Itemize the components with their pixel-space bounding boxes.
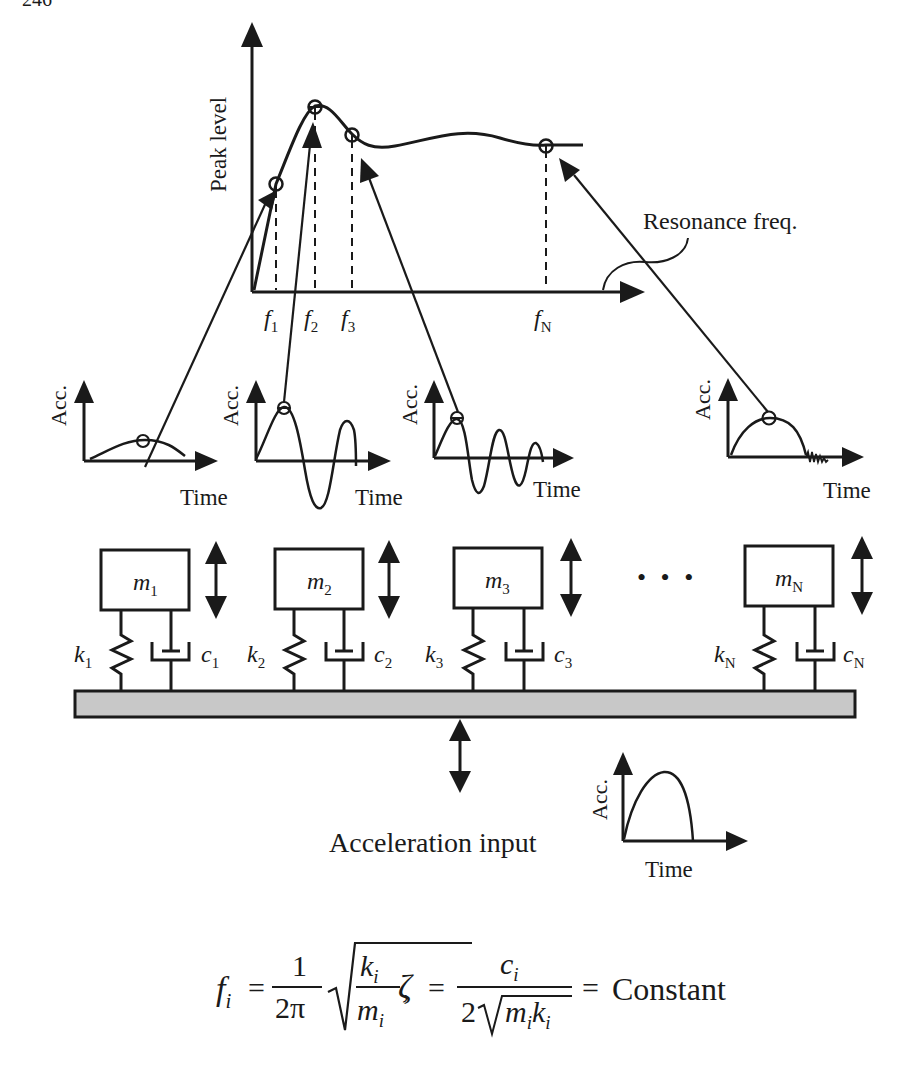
tick-fN: fN xyxy=(534,305,552,335)
damper-label: c3 xyxy=(554,641,572,671)
spring-label: k3 xyxy=(425,641,443,671)
base-plate xyxy=(75,691,855,717)
spring-icon xyxy=(755,606,774,691)
tick-f3: f3 xyxy=(341,305,355,335)
formula: fi = 1 2π ki mi , ζ = ci 2 miki = Consta… xyxy=(216,943,726,1034)
acceleration-input: Acceleration input Acc. Time xyxy=(329,719,748,882)
formula-mi: mi xyxy=(357,993,384,1031)
response-plot-N: Acc. Time xyxy=(690,378,871,503)
response-3-x-label: Time xyxy=(533,477,581,502)
damper-label: cN xyxy=(843,641,865,671)
mass-label: m1 xyxy=(133,569,158,599)
peak-marker-2 xyxy=(309,101,322,114)
input-x-label: Time xyxy=(645,857,693,882)
response-spectrum-diagram: 246 Peak level f1 f2 f3 fN Resonance fre… xyxy=(0,0,919,1077)
oscillator-2: m2 k2 c2 xyxy=(247,540,400,691)
page-number: 246 xyxy=(22,0,52,10)
response-1-x-label: Time xyxy=(180,485,228,510)
acceleration-input-label: Acceleration input xyxy=(329,827,537,858)
resonance-freq-label: Resonance freq. xyxy=(643,208,798,234)
arrow-osc3-to-f3 xyxy=(369,178,458,412)
arrow-head-f3-icon xyxy=(360,158,379,183)
formula-fi: fi xyxy=(216,970,231,1013)
y-axis-label: Peak level xyxy=(206,97,231,192)
time-arrow-icon xyxy=(368,451,391,471)
ellipsis: • • • xyxy=(637,563,697,592)
response-1-y-label: Acc. xyxy=(46,385,71,426)
formula-equals-3: = xyxy=(582,971,599,1004)
spring-icon xyxy=(285,609,304,691)
acc-arrow-icon xyxy=(424,380,444,403)
formula-zeta: ζ xyxy=(398,968,414,1005)
tick-f2: f2 xyxy=(304,305,318,335)
time-arrow-icon xyxy=(726,831,748,851)
response-N-y-label: Acc. xyxy=(690,379,715,420)
arrow-osc1-to-f1 xyxy=(145,198,268,467)
spring-icon xyxy=(112,610,131,691)
arrow-head-f2-icon xyxy=(302,122,322,148)
spectrum-curve xyxy=(254,105,583,290)
time-arrow-icon xyxy=(553,448,574,468)
y-axis-arrow-icon xyxy=(241,22,263,47)
time-arrow-icon xyxy=(195,451,218,471)
response-3-y-label: Acc. xyxy=(397,384,422,425)
response-2-y-label: Acc. xyxy=(218,385,243,426)
response-plot-2: Acc. Time xyxy=(218,380,403,510)
response-2-x-label: Time xyxy=(355,485,403,510)
oscillator-N: mN kN cN xyxy=(714,536,873,691)
tick-f1: f1 xyxy=(264,305,278,335)
arrow-osc2-to-f2 xyxy=(284,145,310,402)
response-N-x-label: Time xyxy=(823,478,871,503)
spring-label: k2 xyxy=(247,641,265,671)
mass-label: mN xyxy=(775,565,803,595)
formula-equals-1: = xyxy=(248,971,265,1004)
response-plot-3: Acc. Time xyxy=(397,380,581,502)
mass-label: m2 xyxy=(307,568,332,598)
acc-arrow-icon xyxy=(718,378,738,401)
x-axis-arrow-icon xyxy=(620,281,645,303)
damper-label: c2 xyxy=(374,641,392,671)
input-y-label: Acc. xyxy=(587,779,612,820)
oscillator-1: m1 k1 c1 xyxy=(74,541,227,691)
formula-ki: ki xyxy=(360,949,379,987)
formula-two: 2 xyxy=(461,995,476,1028)
formula-one: 1 xyxy=(292,949,307,982)
peak-marker-1 xyxy=(270,178,283,191)
formula-constant: Constant xyxy=(612,971,726,1007)
damper-label: c1 xyxy=(201,641,219,671)
acc-arrow-icon xyxy=(74,380,94,403)
formula-equals-2: = xyxy=(428,971,445,1004)
spring-label: k1 xyxy=(74,641,92,671)
peak-marker-3 xyxy=(346,129,359,142)
formula-miki: miki xyxy=(505,995,551,1033)
mass-label: m3 xyxy=(485,567,510,597)
acc-arrow-icon xyxy=(246,380,266,403)
time-arrow-icon xyxy=(842,447,864,467)
arrow-head-f1-icon xyxy=(258,190,277,210)
response-plot-1: Acc. Time xyxy=(46,380,228,510)
input-pulse-curve xyxy=(624,772,693,841)
formula-ci: ci xyxy=(500,947,519,985)
acc-arrow-icon xyxy=(613,752,633,775)
oscillator-3: m3 k3 c3 xyxy=(425,538,582,691)
formula-2pi: 2π xyxy=(275,991,305,1024)
spring-label: kN xyxy=(714,641,736,671)
spring-icon xyxy=(464,608,483,691)
